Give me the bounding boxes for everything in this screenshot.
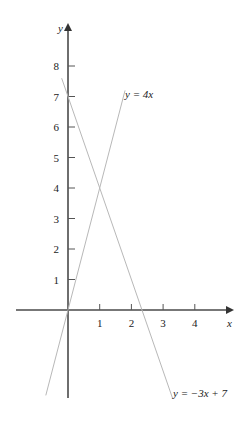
function-lines bbox=[46, 78, 173, 398]
function-line-y-equals-neg3x-plus-7 bbox=[62, 78, 173, 398]
line-label-y-equals-4x: y = 4x bbox=[124, 88, 153, 100]
y-tick-label: 2 bbox=[54, 243, 60, 255]
x-tick-label: 4 bbox=[192, 317, 198, 329]
x-axis-label: x bbox=[226, 317, 232, 329]
y-tick-label: 7 bbox=[54, 91, 60, 103]
ticks bbox=[68, 66, 195, 310]
y-tick-label: 6 bbox=[54, 121, 60, 133]
x-tick-label: 1 bbox=[97, 317, 103, 329]
labels: 123412345678xyy = 4xy = −3x + 7 bbox=[54, 22, 233, 399]
chart: 123412345678xyy = 4xy = −3x + 7 bbox=[0, 0, 241, 421]
y-tick-label: 3 bbox=[54, 213, 60, 225]
y-tick-label: 4 bbox=[54, 182, 60, 194]
line-label-y-equals-neg3x-plus-7: y = −3x + 7 bbox=[172, 387, 228, 399]
y-tick-label: 8 bbox=[54, 60, 60, 72]
y-axis-label: y bbox=[57, 22, 63, 34]
axes bbox=[16, 25, 232, 398]
y-tick-label: 1 bbox=[54, 274, 60, 286]
y-tick-label: 5 bbox=[54, 152, 60, 164]
x-tick-label: 3 bbox=[160, 317, 166, 329]
x-tick-label: 2 bbox=[129, 317, 135, 329]
